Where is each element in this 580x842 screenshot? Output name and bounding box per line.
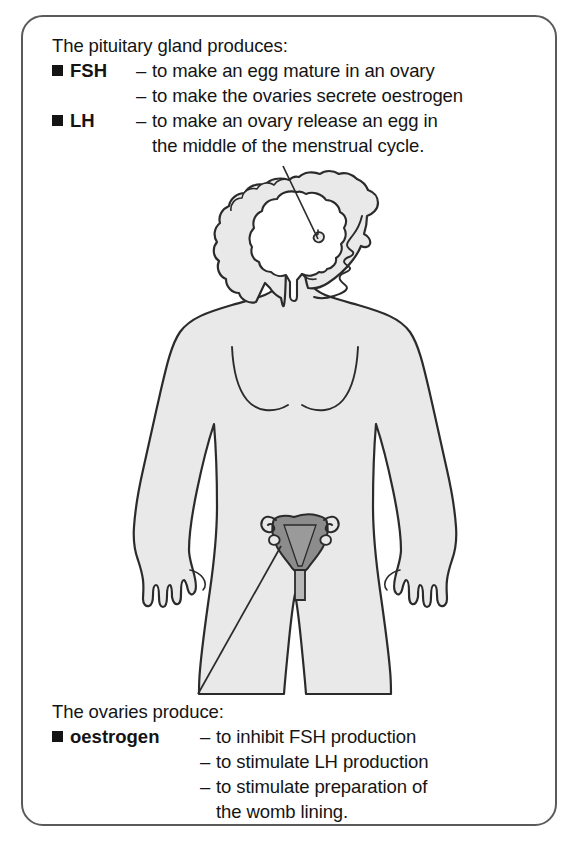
oestrogen-desc-3: to stimulate preparation of [216, 774, 427, 799]
oestrogen-dash-3: – [200, 774, 216, 799]
fsh-dash-2: – [136, 83, 152, 108]
oestrogen-row-3: – to stimulate preparation of [52, 774, 428, 799]
fsh-desc-2: to make the ovaries secrete oestrogen [152, 83, 463, 108]
lh-row-2: the middle of the menstrual cycle. [52, 133, 463, 158]
bullet-square-icon [52, 65, 63, 76]
lh-dash-1: – [136, 108, 152, 133]
pituitary-heading: The pituitary gland produces: [52, 33, 288, 58]
bullet-square-icon [52, 731, 63, 742]
fsh-row-1: FSH – to make an egg mature in an ovary [52, 58, 463, 83]
oestrogen-desc-1: to inhibit FSH production [216, 724, 416, 749]
diagram-page: The pituitary gland produces: FSH – to m… [0, 0, 580, 842]
fsh-desc-1: to make an egg mature in an ovary [152, 58, 435, 83]
oestrogen-term: oestrogen [70, 724, 159, 749]
lh-bullet-cell: LH [52, 108, 136, 133]
lh-row-1: LH – to make an ovary release an egg in [52, 108, 463, 133]
pituitary-heading-row: The pituitary gland produces: [52, 33, 463, 58]
oestrogen-row-2: – to stimulate LH production [52, 749, 428, 774]
lh-term: LH [70, 108, 95, 133]
fsh-dash-1: – [136, 58, 152, 83]
bullet-square-icon [52, 115, 63, 126]
ovaries-text-block: The ovaries produce: oestrogen – to inhi… [52, 699, 428, 824]
ovaries-heading-row: The ovaries produce: [52, 699, 428, 724]
ovaries-heading: The ovaries produce: [52, 699, 224, 724]
oestrogen-bullet-cell: oestrogen [52, 724, 200, 749]
lh-desc-2: the middle of the menstrual cycle. [152, 133, 424, 158]
fsh-row-2: – to make the ovaries secrete oestrogen [52, 83, 463, 108]
pituitary-text-block: The pituitary gland produces: FSH – to m… [52, 33, 463, 158]
fsh-term: FSH [70, 58, 107, 83]
fsh-bullet-cell: FSH [52, 58, 136, 83]
oestrogen-row-4: the womb lining. [52, 799, 428, 824]
oestrogen-desc-2: to stimulate LH production [216, 749, 428, 774]
oestrogen-dash-1: – [200, 724, 216, 749]
oestrogen-desc-4: the womb lining. [216, 799, 348, 824]
oestrogen-dash-2: – [200, 749, 216, 774]
lh-desc-1: to make an ovary release an egg in [152, 108, 438, 133]
oestrogen-row-1: oestrogen – to inhibit FSH production [52, 724, 428, 749]
